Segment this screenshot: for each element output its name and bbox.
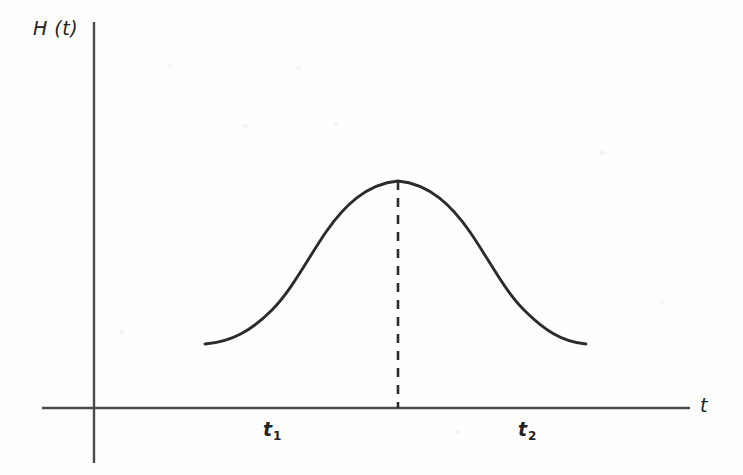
tick-label-t1-subscript: 1: [273, 429, 281, 443]
tick-label-t2-subscript: 2: [528, 429, 536, 443]
y-axis-label: H (t): [33, 17, 78, 39]
hazard-curve: [205, 181, 586, 344]
tick-label-t2: t2: [518, 418, 535, 440]
hazard-function-figure: H (t) t t1 t2: [0, 0, 743, 475]
tick-label-t1-base: t: [263, 418, 272, 440]
x-axis-label: t: [700, 394, 707, 416]
tick-label-t1: t1: [263, 418, 280, 440]
plot-canvas: [0, 0, 743, 475]
tick-label-t2-base: t: [518, 418, 527, 440]
